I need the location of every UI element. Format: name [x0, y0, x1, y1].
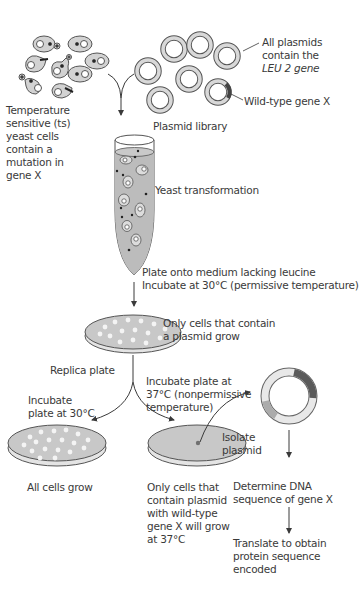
yeast-cell-icon [68, 36, 92, 52]
replica-plate-label: Replica plate [50, 364, 115, 377]
plasmid-with-gene-x-icon [207, 81, 230, 103]
surviving-colony [196, 441, 200, 445]
label-line: plate at 30°C [28, 407, 95, 420]
yeast-cell-icon [33, 36, 60, 52]
label-line: at 37°C [147, 533, 230, 546]
label-line: Only cells that contain [163, 317, 275, 330]
label-line: contain the [262, 49, 322, 62]
incubate-30c-label: Incubate plate at 30°C [28, 394, 95, 420]
translate-protein-label: Translate to obtain protein sequence enc… [233, 537, 326, 576]
label-line: All plasmids [262, 36, 322, 49]
yeast-cell-icon [26, 56, 48, 72]
plate-30c-icon [8, 425, 106, 466]
plasmid-library-group [137, 34, 259, 111]
label-line: contain plasmid [147, 494, 230, 507]
yeast-cells-group [19, 36, 109, 98]
plating-instructions: Plate onto medium lacking leucine Incuba… [142, 266, 359, 292]
plasmid-icon [216, 45, 238, 67]
label-line: Incubate plate at [146, 375, 251, 388]
incubate-37c-label: Incubate plate at 37°C (nonpermissive te… [146, 375, 251, 414]
test-tube-icon [112, 135, 158, 282]
label-line: temperature) [146, 401, 251, 414]
master-plate-label: Only cells that contain a plasmid grow [163, 317, 275, 343]
determine-sequence-label: Determine DNA sequence of gene X [233, 480, 333, 506]
label-line: Translate to obtain [233, 537, 326, 550]
label-line: gene X will grow [147, 520, 230, 533]
label-line: a plasmid grow [163, 330, 275, 343]
plasmid-icon [149, 89, 171, 111]
wild-type-grow-label: Only cells that contain plasmid with wil… [147, 481, 230, 546]
gene-x-segment [294, 373, 313, 399]
label-line: mutation in [6, 156, 70, 169]
label-line: LEU 2 gene [262, 62, 322, 75]
label-line: protein sequence [233, 550, 326, 563]
label-line: Plate onto medium lacking leucine [142, 266, 359, 279]
isolate-plasmid-label: Isolate plasmid [222, 431, 262, 457]
plasmid-icon [163, 38, 185, 60]
transformation-label: Yeast transformation [155, 184, 259, 197]
label-line: Determine DNA [233, 480, 333, 493]
isolated-plasmid-icon [265, 372, 313, 420]
label-line: Temperature [6, 104, 70, 117]
ts-yeast-label: Temperature sensitive (ts) yeast cells c… [6, 104, 70, 182]
yeast-cell-icon [68, 66, 92, 82]
label-line: gene X [6, 169, 70, 182]
label-line: Incubate [28, 394, 95, 407]
label-line: Isolate [222, 431, 262, 444]
label-line: with wild-type [147, 507, 230, 520]
plasmid-icon [178, 68, 200, 90]
label-line: 37°C (nonpermissive [146, 388, 251, 401]
yeast-cell-icon [19, 74, 42, 94]
gene-x-annotation: Wild-type gene X [244, 95, 330, 108]
label-line: sensitive (ts) [6, 117, 70, 130]
plasmid-icon [189, 34, 211, 56]
label-line: plasmid [222, 444, 262, 457]
label-line: Only cells that [147, 481, 230, 494]
label-line: Incubate at 30°C (permissive temperature… [142, 279, 359, 292]
label-line: contain a [6, 143, 70, 156]
leu2-annotation: All plasmids contain the LEU 2 gene [262, 36, 322, 75]
yeast-cell-icon [52, 84, 73, 98]
label-line: yeast cells [6, 130, 70, 143]
all-cells-grow-label: All cells grow [27, 481, 93, 494]
plasmid-library-label: Plasmid library [153, 120, 227, 133]
merge-arrow [108, 74, 134, 115]
label-line: encoded [233, 563, 326, 576]
label-line: sequence of gene X [233, 493, 333, 506]
plasmid-icon [137, 60, 159, 82]
yeast-cell-icon [85, 53, 109, 69]
